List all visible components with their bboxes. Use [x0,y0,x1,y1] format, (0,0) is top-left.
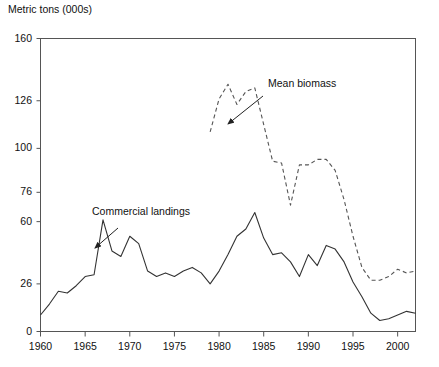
y-axis-ticks [37,39,41,332]
x-tick-label: 1975 [154,340,194,352]
plot-area [0,0,439,367]
x-tick-label: 1995 [333,340,373,352]
x-tick-label: 1960 [21,340,61,352]
y-tick-label: 26 [2,277,32,289]
y-tick-label: 76 [2,185,32,197]
y-tick-label: 100 [2,141,32,153]
x-tick-label: 2000 [378,340,418,352]
y-tick-label: 0 [2,325,32,337]
x-tick-label: 1990 [288,340,328,352]
y-tick-label: 160 [2,32,32,44]
x-axis-ticks [41,332,398,337]
chart-container: Metric tons (000s) 1601261007660260 1960… [0,0,439,367]
x-tick-label: 1980 [199,340,239,352]
y-tick-label: 126 [2,94,32,106]
plot-frame [41,39,416,332]
x-tick-label: 1985 [244,340,284,352]
annotation-label: Mean biomass [268,77,336,89]
y-tick-label: 60 [2,215,32,227]
x-tick-label: 1965 [65,340,105,352]
x-tick-label: 1970 [110,340,150,352]
annotation-label: Commercial landings [92,205,190,217]
